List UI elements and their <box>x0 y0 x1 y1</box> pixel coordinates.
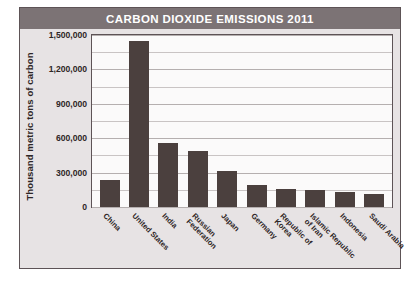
bar <box>335 192 355 207</box>
y-tick-label: 0 <box>82 202 87 212</box>
y-axis-title: Thousand metric tons of carbon <box>22 36 36 216</box>
x-tick-label: China <box>101 212 122 233</box>
x-label-slot: Japan <box>217 210 237 270</box>
y-axis-title-label: Thousand metric tons of carbon <box>24 52 35 200</box>
bar <box>158 143 178 207</box>
x-label-slot: Islamic Republicof Iran <box>306 210 326 270</box>
x-tick-label: Saudi Arabia <box>367 212 406 251</box>
x-tick-label: Germany <box>249 212 278 241</box>
chart-title-bar: CARBON DIOXIDE EMISSIONS 2011 <box>20 8 400 29</box>
chart-title: CARBON DIOXIDE EMISSIONS 2011 <box>106 13 314 25</box>
y-tick-label: 300,000 <box>56 168 87 178</box>
bar <box>276 189 296 207</box>
bar <box>129 41 149 207</box>
bar <box>188 151 208 207</box>
y-tick-label: 1,500,000 <box>49 30 87 40</box>
x-tick-label: Indonesia <box>338 212 369 243</box>
y-axis-tick-labels: 0300,000600,000900,0001,200,0001,500,000 <box>36 34 89 208</box>
bar-series <box>92 35 392 207</box>
y-tick-label: 600,000 <box>56 133 87 143</box>
bar <box>364 194 384 207</box>
x-label-slot: Indonesia <box>336 210 356 270</box>
x-label-slot: RussianFederation <box>188 210 208 270</box>
x-label-slot: Republic ofKorea <box>276 210 296 270</box>
x-label-slot: India <box>158 210 178 270</box>
plot-area <box>91 34 393 208</box>
bar <box>247 185 267 207</box>
x-axis-tick-labels: ChinaUnited StatesIndiaRussianFederation… <box>91 210 393 270</box>
x-label-slot: Saudi Arabia <box>365 210 385 270</box>
chart-card: CARBON DIOXIDE EMISSIONS 2011 Thousand m… <box>19 7 401 269</box>
bar <box>217 171 237 207</box>
gridline-major <box>92 207 392 208</box>
x-tick-label: India <box>160 212 178 230</box>
x-tick-label: Japan <box>219 212 240 233</box>
x-label-slot: Germany <box>247 210 267 270</box>
bar <box>305 190 325 207</box>
x-label-slot: China <box>99 210 119 270</box>
y-tick-label: 1,200,000 <box>49 64 87 74</box>
y-tick-label: 900,000 <box>56 99 87 109</box>
chart-page: CARBON DIOXIDE EMISSIONS 2011 Thousand m… <box>0 0 419 287</box>
x-label-slot: United States <box>128 210 148 270</box>
bar <box>100 180 120 207</box>
